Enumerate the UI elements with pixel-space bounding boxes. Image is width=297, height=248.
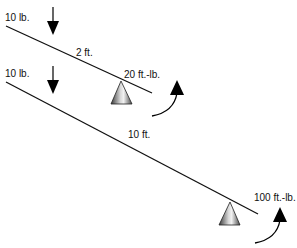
fulcrum-cone-icon xyxy=(219,202,240,225)
curved-arrow-icon xyxy=(255,207,287,243)
force-label: 10 lb. xyxy=(5,68,29,79)
down-arrow-icon xyxy=(47,66,59,94)
torque-label: 20 ft.-lb. xyxy=(124,69,160,80)
curved-arrow-icon xyxy=(152,80,184,116)
distance-label: 2 ft. xyxy=(76,47,93,58)
down-arrow-icon xyxy=(47,7,59,35)
torque-diagram: 10 lb. 2 ft. 20 ft.-lb. 10 lb. xyxy=(0,0,297,248)
lever-1: 10 lb. 2 ft. 20 ft.-lb. xyxy=(5,7,184,116)
force-label: 10 lb. xyxy=(5,12,29,23)
distance-label: 10 ft. xyxy=(128,129,150,140)
torque-label: 100 ft.-lb. xyxy=(254,192,296,203)
fulcrum-cone-icon xyxy=(111,81,132,104)
lever-bar xyxy=(6,82,258,214)
lever-bar xyxy=(6,26,152,93)
